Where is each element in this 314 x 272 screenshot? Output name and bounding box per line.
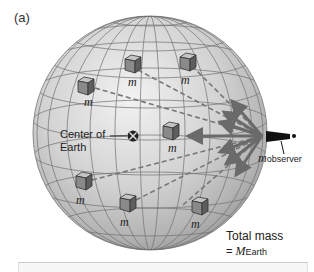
total-mass-label: Total mass	[226, 230, 283, 242]
observer-subscript: observer	[267, 154, 302, 164]
mass-label: m	[120, 216, 129, 228]
total-mass-symbol: M	[236, 244, 246, 258]
mass-label: m	[181, 74, 190, 86]
mass-label: m	[128, 76, 137, 88]
mass-label: m	[84, 96, 93, 108]
center-of-earth-label-line1: Center of	[60, 128, 105, 140]
observer-figure	[266, 131, 296, 154]
equals-sign: =	[226, 245, 232, 257]
mass-label: m	[168, 142, 177, 154]
mass-label: m	[76, 194, 85, 206]
caption-bar	[18, 262, 308, 272]
mass-label: m	[191, 218, 200, 230]
center-of-earth-label-line2: Earth	[60, 141, 86, 153]
total-mass-equation: = MEarth	[226, 245, 267, 258]
observer-label: mobserver	[258, 152, 302, 165]
observer-mass-symbol: m	[258, 151, 267, 165]
total-mass-subscript: Earth	[246, 247, 268, 257]
